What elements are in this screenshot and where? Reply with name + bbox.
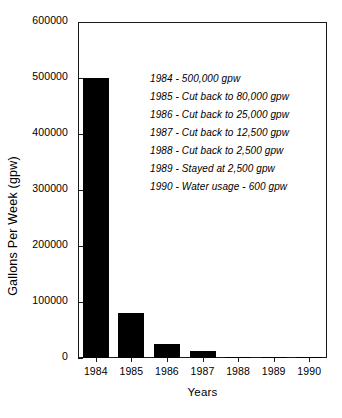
x-axis-tick-mark — [238, 358, 239, 362]
x-axis-tick-label: 1985 — [111, 365, 151, 377]
x-axis-tick-label: 1986 — [147, 365, 187, 377]
x-axis-title: Years — [78, 386, 327, 398]
annotation-line: 1989 - Stayed at 2,500 gpw — [150, 160, 289, 178]
x-axis-tick-mark — [309, 358, 310, 362]
x-axis-tick-label: 1989 — [254, 365, 294, 377]
bar — [154, 344, 180, 358]
y-axis-tick-label: 100000 — [32, 294, 68, 306]
annotation-list: 1984 - 500,000 gpw1985 - Cut back to 80,… — [150, 70, 289, 196]
y-axis-title: Gallons Per Week (gpw) — [0, 0, 26, 418]
bar — [296, 357, 322, 358]
annotation-line: 1985 - Cut back to 80,000 gpw — [150, 88, 289, 106]
bar — [83, 78, 109, 358]
annotation-line: 1987 - Cut back to 12,500 gpw — [150, 124, 289, 142]
bar — [190, 351, 216, 358]
x-axis-tick-mark — [96, 358, 97, 362]
annotation-line: 1990 - Water usage - 600 gpw — [150, 178, 289, 196]
annotation-line: 1986 - Cut back to 25,000 gpw — [150, 106, 289, 124]
y-axis-tick-label: 600000 — [32, 14, 68, 26]
y-axis-tick-label: 500000 — [32, 70, 68, 82]
x-axis-tick-mark — [167, 358, 168, 362]
y-axis-title-text: Gallons Per Week (gpw) — [6, 156, 20, 296]
x-axis-tick-label: 1984 — [76, 365, 116, 377]
y-axis-tick-mark — [78, 358, 83, 359]
y-axis-tick-mark — [78, 22, 83, 23]
y-axis-tick-label: 0 — [62, 350, 68, 362]
bar — [261, 357, 287, 358]
bar — [118, 313, 144, 358]
x-axis-tick-label: 1987 — [183, 365, 223, 377]
bar-chart-figure: Gallons Per Week (gpw) 01000002000003000… — [0, 0, 342, 418]
y-axis-tick-label: 200000 — [32, 238, 68, 250]
y-axis-tick-label: 400000 — [32, 126, 68, 138]
y-axis-tick-label: 300000 — [32, 182, 68, 194]
bar — [225, 357, 251, 358]
annotation-line: 1984 - 500,000 gpw — [150, 70, 289, 88]
x-axis-tick-label: 1990 — [289, 365, 329, 377]
x-axis-tick-mark — [203, 358, 204, 362]
x-axis-tick-mark — [274, 358, 275, 362]
x-axis-tick-mark — [131, 358, 132, 362]
x-axis-tick-label: 1988 — [218, 365, 258, 377]
annotation-line: 1988 - Cut back to 2,500 gpw — [150, 142, 289, 160]
